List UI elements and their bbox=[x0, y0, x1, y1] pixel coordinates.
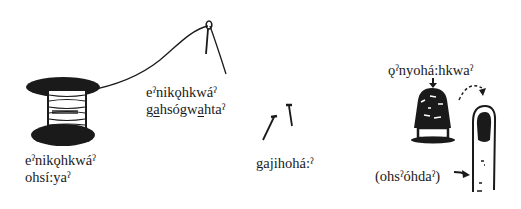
needle-icon bbox=[206, 21, 212, 54]
needle-label-end: htaˀ bbox=[204, 101, 225, 117]
finger-label-text: (ohsˀóhdaˀ) bbox=[375, 168, 440, 185]
thimble-label-text: ǫˀnyohá:hkwaˀ bbox=[388, 62, 473, 79]
needle-label-line2: gahsógwahtaˀ bbox=[146, 101, 225, 118]
finger-icon bbox=[473, 106, 495, 192]
thread-line bbox=[86, 26, 208, 91]
finger-label: (ohsˀóhdaˀ) bbox=[375, 168, 440, 185]
needle-label-line1: eˀnikǫhkwáˀ bbox=[146, 84, 225, 101]
spool-label-line1: eˀnikǫhkwáˀ bbox=[25, 152, 96, 169]
thimble-icon bbox=[411, 88, 455, 144]
needle-label-middle: hsógw bbox=[160, 101, 198, 117]
needle-label: eˀnikǫhkwáˀ gahsógwahtaˀ bbox=[146, 84, 225, 118]
dashed-arrow-head bbox=[479, 88, 486, 96]
spool-label-line2: ohsí:yaˀ bbox=[25, 169, 96, 186]
dashed-arrow-icon bbox=[459, 86, 482, 100]
pins-label-text: gajihohá:ˀ bbox=[256, 155, 314, 172]
arrow-right-head bbox=[462, 170, 470, 178]
arrow-down-head bbox=[429, 83, 437, 88]
spool-label: eˀnikǫhkwáˀ ohsí:yaˀ bbox=[25, 152, 96, 186]
thimble-label: ǫˀnyohá:hkwaˀ bbox=[388, 62, 473, 79]
thread-tail bbox=[210, 26, 226, 74]
pins-icon bbox=[263, 105, 292, 140]
pins-label: gajihohá:ˀ bbox=[256, 155, 314, 172]
spool-of-thread-icon bbox=[26, 77, 100, 146]
